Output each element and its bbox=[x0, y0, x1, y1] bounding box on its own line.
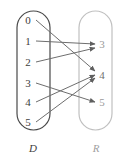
set-label-r: R bbox=[92, 142, 100, 154]
arrow-1-to-3 bbox=[36, 41, 95, 44]
domain-element-2: 2 bbox=[25, 56, 31, 68]
range-element-5: 5 bbox=[99, 96, 105, 108]
domain-element-1: 1 bbox=[25, 35, 31, 47]
arrow-group bbox=[36, 20, 95, 122]
mapping-diagram: 0 1 2 3 4 5 3 4 5 D R bbox=[0, 0, 125, 167]
arrow-0-to-4 bbox=[36, 20, 95, 71]
range-element-3: 3 bbox=[99, 38, 105, 50]
domain-element-0: 0 bbox=[25, 14, 31, 26]
set-label-d: D bbox=[28, 142, 37, 154]
arrow-2-to-3 bbox=[36, 48, 95, 62]
arrow-5-to-4 bbox=[36, 78, 95, 122]
range-oval bbox=[79, 11, 112, 130]
domain-oval bbox=[17, 11, 50, 130]
arrow-4-to-4 bbox=[36, 75, 95, 102]
domain-element-4: 4 bbox=[25, 96, 31, 108]
range-element-4: 4 bbox=[99, 69, 105, 81]
domain-element-5: 5 bbox=[25, 116, 31, 128]
arrow-3-to-5 bbox=[36, 83, 95, 102]
domain-element-3: 3 bbox=[25, 77, 31, 89]
